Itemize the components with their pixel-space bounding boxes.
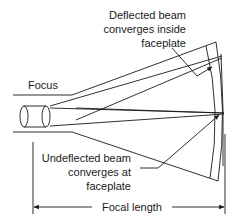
undeflected-beam-label: Undeflected beam converges at faceplate	[42, 152, 131, 192]
label-line: Deflected beam	[109, 9, 186, 21]
focus-label: Focus	[28, 79, 58, 91]
label-line: faceplate	[141, 37, 186, 49]
label-line: faceplate	[86, 180, 131, 192]
beam-paths	[50, 56, 224, 126]
faceplate	[206, 42, 223, 181]
label-line: converges at	[68, 166, 131, 178]
electron-gun-icon	[20, 106, 50, 127]
crt-focus-diagram: Deflected beam converges inside faceplat…	[0, 0, 235, 223]
focal-length-label: Focal length	[102, 201, 162, 213]
label-line: Undeflected beam	[42, 152, 131, 164]
deflected-beam-label: Deflected beam converges inside faceplat…	[103, 9, 186, 49]
label-line: converges inside	[103, 23, 186, 35]
